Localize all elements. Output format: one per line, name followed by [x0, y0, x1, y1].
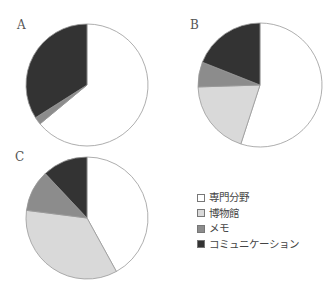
swatch-icon	[197, 209, 205, 217]
pie-chart-b	[198, 23, 322, 147]
pie-chart-a	[26, 24, 148, 146]
swatch-icon	[197, 194, 205, 202]
legend-item-museum: 博物館	[197, 206, 299, 222]
swatch-icon	[197, 225, 205, 233]
pie-chart-c	[26, 157, 148, 279]
legend-item-memo: メモ	[197, 221, 299, 237]
swatch-icon	[197, 240, 205, 248]
legend-item-communication: コミュニケーション	[197, 237, 299, 253]
legend: 専門分野 博物館 メモ コミュニケーション	[197, 190, 299, 252]
legend-item-senmon: 専門分野	[197, 190, 299, 206]
